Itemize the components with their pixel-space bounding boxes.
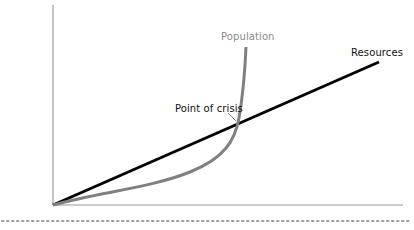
growth-diagram [0,0,414,230]
population-curve [53,47,246,205]
crisis-label: Point of crisis [175,103,243,114]
population-label: Population [221,31,275,42]
crisis-pointer [228,113,236,121]
resources-line [53,62,379,205]
resources-label: Resources [351,47,403,58]
